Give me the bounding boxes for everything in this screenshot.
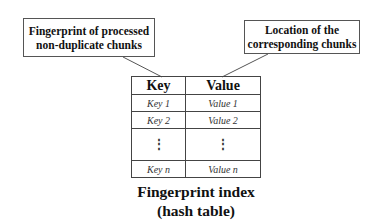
- key-cell: Key n: [132, 161, 186, 178]
- value-callout-line1: Location of the: [265, 23, 339, 37]
- figure-caption: Fingerprint index (hash table): [96, 182, 296, 220]
- table-row: Key 2 Value 2: [132, 112, 261, 129]
- value-ellipsis: ⋮: [186, 129, 261, 161]
- table-row: Key 1 Value 1: [132, 95, 261, 112]
- table-row: Key n Value n: [132, 161, 261, 178]
- key-cell: Key 1: [132, 95, 186, 112]
- key-callout-line1: Fingerprint of processed: [29, 24, 150, 38]
- value-callout-line2: corresponding chunks: [248, 37, 357, 51]
- hash-table: Key Value Key 1 Value 1 Key 2 Value 2 ⋮ …: [131, 76, 261, 178]
- key-callout-line2: non-duplicate chunks: [36, 38, 142, 52]
- key-callout-box: Fingerprint of processed non-duplicate c…: [23, 18, 155, 57]
- table-header-row: Key Value: [132, 77, 261, 95]
- value-callout-box: Location of the corresponding chunks: [244, 20, 360, 54]
- caption-line2: (hash table): [96, 201, 296, 220]
- value-header: Value: [186, 77, 261, 95]
- key-cell: Key 2: [132, 112, 186, 129]
- key-ellipsis: ⋮: [132, 129, 186, 161]
- vertical-ellipsis-icon: ⋮: [153, 142, 165, 146]
- key-header: Key: [132, 77, 186, 95]
- value-cell: Value 1: [186, 95, 261, 112]
- table-row-ellipsis: ⋮ ⋮: [132, 129, 261, 161]
- value-cell: Value 2: [186, 112, 261, 129]
- vertical-ellipsis-icon: ⋮: [217, 142, 229, 146]
- value-cell: Value n: [186, 161, 261, 178]
- caption-line1: Fingerprint index: [96, 182, 296, 201]
